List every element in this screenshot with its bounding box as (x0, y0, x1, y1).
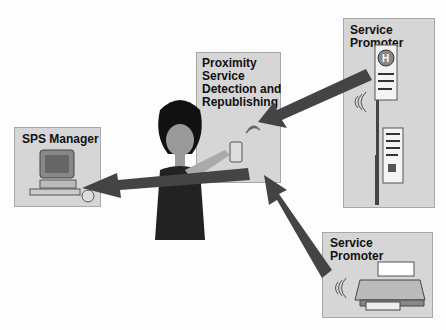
computer-icon (30, 150, 94, 202)
hospital-sign-icon: H (355, 45, 403, 205)
diagram-canvas: Proximity Service Detection and Republis… (0, 0, 446, 330)
person-illustration (155, 100, 230, 240)
diagram-graphics: H (0, 0, 446, 330)
wireless-signal-icon (230, 126, 260, 162)
svg-text:H: H (382, 53, 389, 64)
printer-icon (336, 262, 426, 310)
arrow-printer-to-proximity (264, 175, 332, 278)
arrow-sign-to-proximity (258, 69, 372, 128)
